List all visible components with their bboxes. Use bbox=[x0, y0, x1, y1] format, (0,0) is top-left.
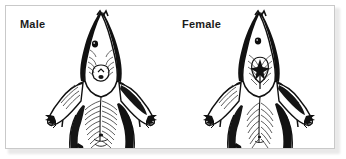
figure-panel: Male Female bbox=[5, 5, 335, 149]
illustration-stage bbox=[6, 6, 335, 149]
figure-root: Male Female bbox=[0, 0, 346, 159]
